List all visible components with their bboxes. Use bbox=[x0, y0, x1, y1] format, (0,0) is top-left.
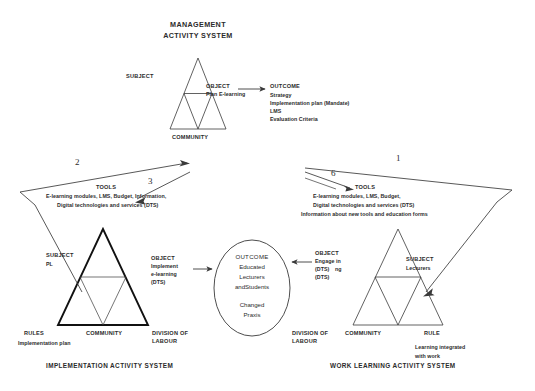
arrow-6-head bbox=[344, 185, 354, 191]
shared-outcome-line1: Educated bbox=[222, 263, 282, 271]
diagram-canvas: MANAGEMENT ACTIVITY SYSTEM SUBJECT COMMU… bbox=[0, 0, 535, 391]
arrow-1-path bbox=[305, 168, 512, 292]
implementation-tools-label: TOOLS bbox=[96, 184, 116, 191]
management-object-text: Plan E-learning bbox=[206, 91, 245, 98]
worklearning-triangle bbox=[353, 229, 443, 325]
implementation-division-line1: DIVISION OF bbox=[152, 330, 188, 337]
management-heading-line2: ACTIVITY SYSTEM bbox=[148, 31, 248, 40]
worklearning-tools-line2: Digital technologies and services (DTS) bbox=[313, 202, 414, 209]
management-community-label: COMMUNITY bbox=[172, 134, 208, 141]
shared-outcome-label: OUTCOME bbox=[222, 253, 282, 261]
arrow-number-6: 6 bbox=[331, 168, 336, 180]
arrow-number-1: 1 bbox=[396, 153, 401, 165]
arrow-6-path bbox=[305, 172, 350, 188]
implementation-system-title: IMPLEMENTATION ACTIVITY SYSTEM bbox=[46, 362, 173, 370]
worklearning-rules-value-line2: with work bbox=[415, 353, 440, 360]
worklearning-object-line2: (DTS) bbox=[315, 266, 329, 273]
implementation-triangle-inner bbox=[80, 277, 126, 325]
worklearning-tools-label: TOOLS bbox=[355, 184, 375, 191]
implementation-subject-label: SUBJECT bbox=[46, 252, 74, 259]
implementation-subject-value: PL bbox=[46, 261, 53, 268]
shared-outcome-line5: Praxis bbox=[222, 311, 282, 319]
worklearning-object-label: OBJECT bbox=[315, 250, 339, 257]
implementation-division-line2: LABOUR bbox=[152, 338, 177, 345]
management-outcome-label: OUTCOME bbox=[270, 83, 300, 90]
worklearning-community-label: COMMUNITY bbox=[345, 330, 381, 337]
worklearning-division-line2: LABOUR bbox=[292, 338, 317, 345]
implementation-object-line1: Implement bbox=[151, 263, 178, 270]
management-object-label: OBJECT bbox=[206, 83, 230, 90]
shared-outcome-line4: Changed bbox=[222, 301, 282, 309]
worklearning-tools-line3: Information about new tools and educatio… bbox=[301, 211, 428, 218]
shared-outcome-line3: andStudents bbox=[219, 283, 285, 291]
worklearning-rules-value-line1: Learning integrated bbox=[415, 344, 465, 351]
management-outcome-item-0: Strategy bbox=[270, 92, 292, 99]
worklearning-rules-label: RULE bbox=[424, 330, 440, 337]
worklearning-object-line2b: ng bbox=[335, 266, 342, 273]
arrow-2-head bbox=[179, 160, 190, 167]
worklearning-system-title: WORK LEARNING ACTIVITY SYSTEM bbox=[330, 362, 456, 370]
worklearning-object-line3: (DTS) bbox=[315, 274, 329, 281]
implementation-tools-line2: Digital technologies and services (DTS) bbox=[57, 202, 158, 209]
implementation-rules-label: RULES bbox=[24, 330, 44, 337]
worklearning-subject-label: SUBJECT bbox=[406, 256, 434, 263]
management-outcome-item-1: Implementation plan (Mandate) bbox=[270, 100, 349, 107]
worklearning-division-line1: DIVISION OF bbox=[292, 330, 328, 337]
implementation-community-label: COMMUNITY bbox=[86, 330, 122, 337]
shared-outcome-line2: Lecturers bbox=[222, 273, 282, 281]
implementation-object-label: OBJECT bbox=[151, 255, 175, 262]
implementation-object-line2: e-learning bbox=[151, 271, 177, 278]
implementation-object-line3: (DTS) bbox=[151, 279, 165, 286]
management-outcome-item-3: Evaluation Criteria bbox=[270, 116, 318, 123]
arrow-number-2: 2 bbox=[75, 157, 80, 169]
arrow-1-head bbox=[423, 288, 435, 296]
worklearning-subject-value: Lecturers bbox=[406, 265, 431, 272]
management-subject-label: SUBJECT bbox=[126, 73, 154, 80]
arrow-6-tail bbox=[305, 178, 336, 189]
implementation-tools-line1: E-learning modules, LMS, Budget, Informa… bbox=[46, 193, 166, 200]
management-heading-line1: MANAGEMENT bbox=[148, 20, 248, 29]
management-outcome-item-2: LMS bbox=[270, 108, 281, 115]
worklearning-tools-line1: E-learning modules, LMS, Budget, bbox=[313, 193, 401, 200]
implementation-rules-value: Implementation plan bbox=[18, 340, 70, 347]
arrow-number-3: 3 bbox=[148, 176, 153, 188]
worklearning-object-line1: Engage in bbox=[315, 258, 341, 265]
